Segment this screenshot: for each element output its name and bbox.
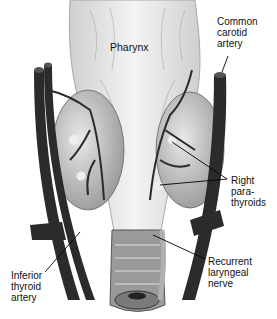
label-inferior-thyroid-artery: Inferior thyroid artery xyxy=(11,270,42,303)
label-recurrent-laryngeal-nerve: Recurrent laryngeal nerve xyxy=(208,256,252,289)
label-right-parathyroids: Right para- thyroids xyxy=(231,175,266,208)
inferior-thyroid-artery-stump xyxy=(30,222,66,240)
parathyroid-left-upper xyxy=(69,135,79,145)
esophagus-lumen xyxy=(128,293,146,300)
anatomy-diagram: Pharynx Common carotid artery Right para… xyxy=(0,0,277,319)
parathyroid-left-lower xyxy=(77,172,86,181)
label-common-carotid-artery: Common carotid artery xyxy=(217,16,258,49)
label-pharynx: Pharynx xyxy=(110,42,149,53)
leader-carotid xyxy=(222,56,228,72)
parathyroid-right-lower xyxy=(155,182,163,190)
